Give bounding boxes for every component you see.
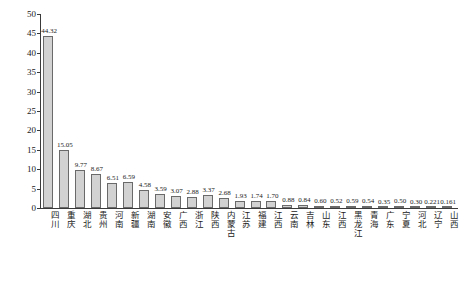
y-tick-mark xyxy=(37,208,41,209)
x-category-label-text: 山西 xyxy=(448,211,457,229)
x-category-label-text: 四川 xyxy=(49,211,58,229)
x-category-label-text: 福建 xyxy=(257,211,266,229)
bar-value-label: 0.161 xyxy=(434,198,462,206)
bar[interactable] xyxy=(378,206,388,208)
bar-value-label: 8.67 xyxy=(83,165,111,173)
x-category-label-text: 广东 xyxy=(384,211,393,229)
x-category-label: 广西 xyxy=(170,211,186,229)
x-category-label-text: 广西 xyxy=(177,211,186,229)
x-category-label: 新疆 xyxy=(122,211,138,229)
y-tick-label: 15 xyxy=(10,146,36,155)
x-category-label: 宁夏 xyxy=(393,211,409,229)
bar[interactable] xyxy=(282,205,292,208)
x-category-label: 广东 xyxy=(377,211,393,229)
y-tick-label: 45 xyxy=(10,29,36,38)
x-category-label: 河南 xyxy=(106,211,122,229)
x-category-label: 辽宁 xyxy=(425,211,441,229)
plot-area: 05101520253035404550 44.3215.059.778.676… xyxy=(40,14,458,209)
x-category-label: 吉林 xyxy=(297,211,313,229)
y-tick-label: 0 xyxy=(10,204,36,213)
y-tick-label: 25 xyxy=(10,107,36,116)
x-category-label: 河北 xyxy=(409,211,425,229)
bar[interactable] xyxy=(330,206,340,208)
x-axis-line xyxy=(40,208,458,209)
x-category-label: 贵州 xyxy=(90,211,106,229)
x-category-label-text: 湖北 xyxy=(81,211,90,229)
y-tick-label: 30 xyxy=(10,88,36,97)
bar[interactable] xyxy=(155,194,165,208)
x-category-label: 四川 xyxy=(42,211,58,229)
bar[interactable] xyxy=(235,201,245,208)
bar-chart: 地质资源量（10×12m³） 05101520253035404550 44.3… xyxy=(0,0,468,287)
y-tick-label: 35 xyxy=(10,68,36,77)
x-axis-labels: 四川重庆湖北贵州河南新疆湖南安徽广西浙江陕西内蒙古江苏福建江西云南吉林山东江西黑… xyxy=(41,211,458,273)
x-category-label: 江苏 xyxy=(234,211,250,229)
bar[interactable] xyxy=(171,196,181,208)
x-category-label: 黑龙江 xyxy=(345,211,361,238)
x-category-label-text: 湖南 xyxy=(145,211,154,229)
bar[interactable] xyxy=(251,201,261,208)
y-tick-label: 5 xyxy=(10,185,36,194)
y-tick-label: 40 xyxy=(10,49,36,58)
bar[interactable] xyxy=(59,150,69,208)
bar-value-label: 44.32 xyxy=(35,27,63,35)
x-category-label: 江西 xyxy=(265,211,281,229)
bar[interactable] xyxy=(203,195,213,208)
x-category-label: 内蒙古 xyxy=(218,211,234,238)
x-category-label: 福建 xyxy=(250,211,266,229)
x-category-label: 山西 xyxy=(441,211,457,229)
bar-value-label: 6.59 xyxy=(115,173,143,181)
x-category-label: 浙江 xyxy=(186,211,202,229)
bar[interactable] xyxy=(298,205,308,208)
x-category-label-text: 陕西 xyxy=(209,211,218,229)
x-category-label-text: 河北 xyxy=(416,211,425,229)
x-category-label-text: 江西 xyxy=(273,211,282,229)
bar[interactable] xyxy=(362,206,372,208)
x-category-label-text: 吉林 xyxy=(305,211,314,229)
x-category-label: 重庆 xyxy=(58,211,74,229)
x-category-label-text: 宁夏 xyxy=(400,211,409,229)
x-category-label: 湖北 xyxy=(74,211,90,229)
bar[interactable] xyxy=(75,170,85,208)
x-category-label-text: 云南 xyxy=(289,211,298,229)
bar-series: 44.3215.059.778.676.516.594.583.593.072.… xyxy=(41,14,458,208)
bar[interactable] xyxy=(107,183,117,208)
x-category-label-text: 内蒙古 xyxy=(225,211,234,238)
y-tick-label: 20 xyxy=(10,126,36,135)
bar[interactable] xyxy=(314,206,324,208)
x-category-label-text: 山东 xyxy=(321,211,330,229)
x-category-label: 山东 xyxy=(313,211,329,229)
x-category-label: 江西 xyxy=(329,211,345,229)
y-tick-label: 50 xyxy=(10,10,36,19)
x-category-label-text: 贵州 xyxy=(97,211,106,229)
x-category-label-text: 河南 xyxy=(113,211,122,229)
y-tick-label: 10 xyxy=(10,165,36,174)
x-category-label-text: 浙江 xyxy=(193,211,202,229)
bar-value-label: 15.05 xyxy=(51,141,79,149)
bar[interactable] xyxy=(394,206,404,208)
x-category-label-text: 辽宁 xyxy=(432,211,441,229)
x-category-label: 云南 xyxy=(281,211,297,229)
bar[interactable] xyxy=(43,36,53,208)
x-category-label-text: 新疆 xyxy=(129,211,138,229)
bar[interactable] xyxy=(426,206,436,208)
x-category-label: 青海 xyxy=(361,211,377,229)
x-category-label: 湖南 xyxy=(138,211,154,229)
bar[interactable] xyxy=(410,206,420,208)
x-category-label-text: 安徽 xyxy=(161,211,170,229)
bar[interactable] xyxy=(187,197,197,208)
x-category-label-text: 江苏 xyxy=(241,211,250,229)
x-category-label-text: 江西 xyxy=(336,211,345,229)
x-category-label: 陕西 xyxy=(202,211,218,229)
x-category-label-text: 重庆 xyxy=(65,211,74,229)
bar[interactable] xyxy=(442,206,452,208)
x-category-label-text: 黑龙江 xyxy=(352,211,361,238)
x-category-label-text: 青海 xyxy=(368,211,377,229)
x-category-label: 安徽 xyxy=(154,211,170,229)
bar[interactable] xyxy=(346,206,356,208)
